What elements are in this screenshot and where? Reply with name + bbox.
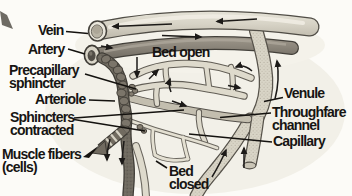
label-arteriole: Arteriole bbox=[35, 93, 85, 106]
label-vein-text: Vein bbox=[38, 24, 64, 37]
label-artery-text: Artery bbox=[28, 43, 64, 56]
label-throughfare-channel: Throughfare channel bbox=[272, 106, 346, 132]
label-venule: Venule bbox=[284, 87, 324, 100]
label-capillary-text: Capillary bbox=[273, 135, 325, 148]
label-artery: Artery bbox=[28, 43, 64, 56]
label-muscle-fibers: Muscle fibers (cells) bbox=[2, 148, 81, 174]
label-arteriole-text: Arteriole bbox=[35, 93, 85, 106]
label-bed-open-text: Bed open bbox=[152, 46, 209, 59]
label-venule-text: Venule bbox=[284, 87, 324, 100]
arteriole-leader-line bbox=[89, 100, 115, 101]
vein-leader-line bbox=[66, 32, 88, 34]
vein-cross-section bbox=[89, 21, 107, 41]
label-precapillary-sphincter: Precapillary sphincter bbox=[9, 64, 79, 90]
label-bed-closed: Bed closed bbox=[169, 165, 209, 191]
label-vein: Vein bbox=[38, 24, 64, 37]
label-bed-open: Bed open bbox=[152, 46, 209, 59]
vein-tube bbox=[98, 16, 310, 31]
corner-artifact bbox=[0, 11, 13, 29]
label-capillary: Capillary bbox=[273, 135, 325, 148]
label-sphincters-contracted: Sphincters contracted bbox=[10, 111, 74, 137]
capillary-bed-figure: Vein Artery Precapillary sphincter Arter… bbox=[0, 0, 352, 196]
